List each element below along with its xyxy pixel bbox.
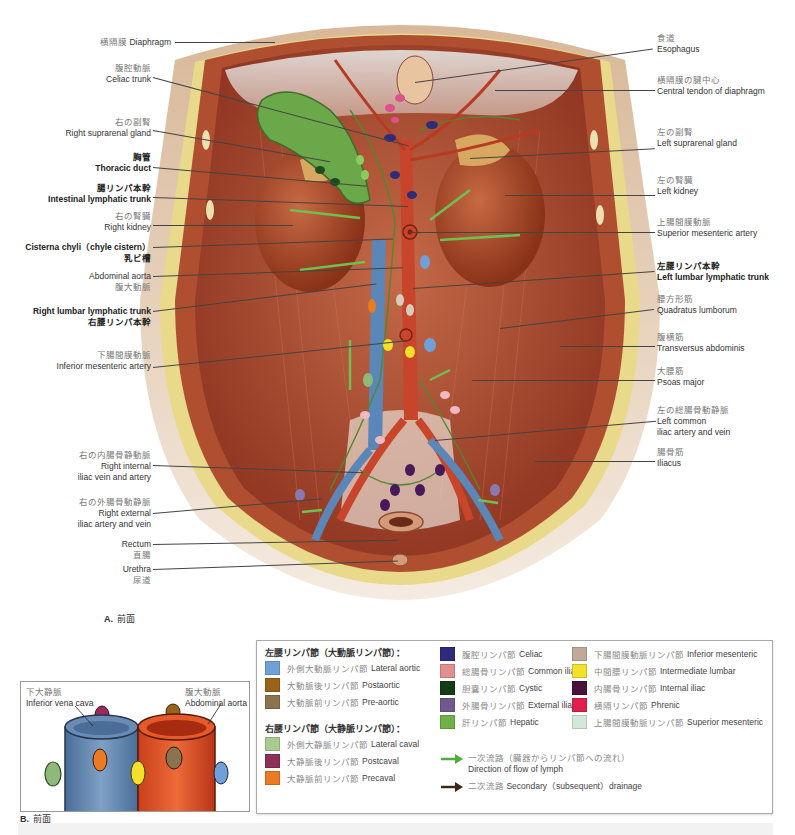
- label-right-internal-iliac: 右の内腸骨静動脈Right internaliliac vein and art…: [78, 450, 151, 483]
- label-right-suprarenal: 右の副腎Right suprarenal gland: [65, 117, 151, 139]
- label-inferior-vena-cava: 下大静脈Inferior vena cava: [26, 687, 94, 709]
- swatch-hepatic: [440, 715, 455, 729]
- legend-item-superior-mesenteric: 上腸間膜動脈リンパ節Superior mesenteric: [572, 715, 763, 729]
- bottom-strip: [18, 823, 773, 835]
- legend-item-lateral-caval: 外側大静脈リンパ節Lateral caval: [265, 737, 419, 751]
- legend-item-cystic: 胆嚢リンパ節Cystic: [440, 681, 542, 695]
- label-psoas-major: 大腰筋Psoas major: [657, 366, 704, 388]
- legend-item-lateral-aortic: 外側大動脈リンパ節Lateral aortic: [265, 661, 420, 675]
- legend-secondary-flow: 二次流路 Secondary（subsequent）drainage: [440, 781, 642, 792]
- leader-central-tendon: [495, 90, 655, 91]
- label-urethra: Urethra尿道: [123, 564, 151, 586]
- swatch-common-iliac: [440, 664, 455, 678]
- legend-item-external-iliac: 外腸骨リンパ節External iliac: [440, 698, 576, 712]
- legend: 左腰リンパ節（大動脈リンパ節）： 外側大動脈リンパ節Lateral aortic…: [256, 640, 773, 814]
- label-abdominal-aorta-b: 腹大動脈Abdominal aorta: [185, 687, 247, 709]
- swatch-internal-iliac: [572, 681, 587, 695]
- swatch-precaval: [265, 771, 280, 785]
- legend-item-postaortic: 大動脈後リンパ節Postaortic: [265, 678, 400, 692]
- legend-item-inferior-mesenteric: 下腸間膜動脈リンパ節Inferior mesenteric: [572, 647, 757, 661]
- label-abdominal-aorta: Abdominal aorta腹大動脈: [89, 271, 151, 293]
- leader-psoas: [472, 380, 655, 381]
- label-celiac-trunk: 腹腔動脈Celiac trunk: [106, 63, 151, 85]
- swatch-lateral-caval: [265, 737, 280, 751]
- swatch-intermediate-lumbar: [572, 664, 587, 678]
- swatch-phrenic: [572, 698, 587, 712]
- label-left-suprarenal: 左の副腎Left suprarenal gland: [657, 127, 737, 149]
- legend-item-precaval: 大静脈前リンパ節Precaval: [265, 771, 395, 785]
- legend-item-internal-iliac: 内腸骨リンパ節Internal iliac: [572, 681, 705, 695]
- legend-item-pre-aortic: 大動脈前リンパ節Pre-aortic: [265, 695, 399, 709]
- legend-item-common-iliac: 総腸骨リンパ節Common iliac: [440, 664, 580, 678]
- leader-sma: [410, 232, 655, 233]
- legend-primary-flow: 一次流路（臓器からリンパ節への流れ） Direction of flow of …: [440, 753, 630, 775]
- legend-left-group-title: 左腰リンパ節（大動脈リンパ節）：: [265, 646, 405, 659]
- swatch-postaortic: [265, 678, 280, 692]
- leader-left-kidney: [505, 195, 655, 196]
- label-right-kidney: 右の腎臓Right kidney: [104, 211, 151, 233]
- leader-right-kidney: [153, 225, 293, 226]
- label-intestinal-trunk: 腸リンパ本幹Intestinal lymphatic trunk: [48, 183, 151, 205]
- swatch-inferior-mesenteric: [572, 647, 587, 661]
- label-left-kidney: 左の腎臓Left kidney: [657, 175, 698, 197]
- legend-right-group-title: 右腰リンパ節（大静脈リンパ節）：: [265, 722, 405, 735]
- swatch-postcaval: [265, 754, 280, 768]
- swatch-pre-aortic: [265, 695, 280, 709]
- legend-item-postcaval: 大静脈後リンパ節Postcaval: [265, 754, 399, 768]
- leader-transversus: [560, 346, 655, 347]
- label-rectum: Rectum直腸: [122, 539, 151, 561]
- label-transversus-abdominis: 腹横筋Transversus abdominis: [657, 332, 745, 354]
- label-left-lumbar-trunk: 左腰リンパ本幹Left lumbar lymphatic trunk: [657, 261, 769, 283]
- swatch-celiac: [440, 647, 455, 661]
- legend-item-hepatic: 肝リンパ節Hepatic: [440, 715, 539, 729]
- legend-item-celiac: 腹腔リンパ節Celiac: [440, 647, 543, 661]
- leader-iliacus: [535, 461, 655, 462]
- label-central-tendon: 横隔膜の腱中心Central tendon of diaphragm: [657, 75, 765, 97]
- label-right-lumbar-trunk: Right lumbar lymphatic trunk右腰リンパ本幹: [33, 306, 151, 328]
- swatch-lateral-aortic: [265, 661, 280, 675]
- swatch-external-iliac: [440, 698, 455, 712]
- figure-a-caption: A.前面: [104, 612, 135, 625]
- swatch-cystic: [440, 681, 455, 695]
- leader-diaphragm: [175, 42, 275, 43]
- green-arrow-icon: [440, 754, 464, 764]
- label-superior-mesenteric-artery: 上腸間膜動脈Superior mesenteric artery: [657, 217, 757, 239]
- label-iliacus: 腸骨筋Iliacus: [657, 447, 684, 469]
- legend-item-intermediate-lumbar: 中間腰リンパ節Intermediate lumbar: [572, 664, 736, 678]
- label-diaphragm: 横隔膜 Diaphragm: [100, 37, 171, 48]
- label-left-common-iliac: 左の総腸骨動静脈Left commoniliac artery and vein: [657, 405, 730, 438]
- vessel-schematic-box: 下大静脈Inferior vena cava 腹大動脈Abdominal aor…: [20, 681, 250, 812]
- brown-arrow-icon: [440, 782, 464, 792]
- label-right-external-iliac: 右の外腸骨動静脈Right externaliliac artery and v…: [78, 497, 151, 530]
- legend-item-phrenic: 横隔リンパ節Phrenic: [572, 698, 680, 712]
- label-cisterna-chyli: Cisterna chyli（chyle cistern）乳ビ槽: [25, 242, 151, 264]
- label-inferior-mesenteric-artery: 下腸間膜動脈Inferior mesenteric artery: [57, 350, 151, 372]
- label-quadratus-lumborum: 腰方形筋Quadratus lumborum: [657, 294, 737, 316]
- swatch-superior-mesenteric: [572, 715, 587, 729]
- label-esophagus: 食道Esophagus: [657, 33, 700, 55]
- label-thoracic-duct: 胸管Thoracic duct: [95, 152, 151, 174]
